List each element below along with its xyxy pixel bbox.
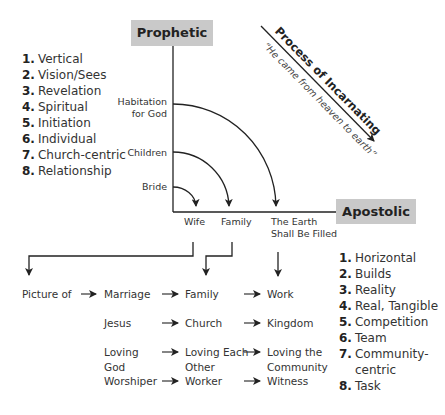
apostolic-traits-list: 1.Horizontal 2.Builds 3.Reality 4.Real, … — [339, 250, 438, 394]
label-children: Children — [127, 147, 167, 159]
list-item: 3.Revelation — [22, 83, 126, 99]
list-item: 6.Individual — [22, 131, 126, 147]
row-0-col-1: Marriage — [104, 287, 150, 302]
row-2-col-3: Loving theCommunity — [267, 345, 328, 375]
list-item: 1.Horizontal — [339, 250, 438, 266]
family-to-family-connector — [206, 242, 232, 275]
prophetic-header: Prophetic — [131, 20, 213, 46]
row-0-col-3: Work — [267, 287, 294, 302]
row-0-col-0: Picture of — [22, 287, 72, 302]
prophetic-label: Prophetic — [137, 25, 208, 40]
list-item: 3.Reality — [339, 282, 438, 298]
list-item: 8.Relationship — [22, 163, 126, 179]
wife-to-marriage-connector — [29, 242, 193, 275]
label-bride: Bride — [142, 181, 167, 193]
list-item: 6.Team — [339, 330, 438, 346]
label-earth: The Earth Shall Be Filled — [271, 216, 337, 240]
row-2-col-1: LovingGod — [104, 345, 139, 375]
label-wife: Wife — [184, 216, 205, 228]
list-item: 8.Task — [339, 378, 438, 394]
row-2-col-2: Loving EachOther — [185, 345, 248, 375]
prophetic-traits-list: 1.Vertical 2.Vision/Sees 3.Revelation 4.… — [22, 51, 126, 179]
list-item: 4.Real, Tangible — [339, 298, 438, 314]
list-item: 5.Initiation — [22, 115, 126, 131]
row-1-col-3: Kingdom — [267, 316, 313, 331]
apostolic-header: Apostolic — [336, 199, 416, 224]
list-item: 2.Builds — [339, 266, 438, 282]
list-item: 7.Community- — [339, 346, 438, 362]
apostolic-label: Apostolic — [342, 204, 410, 219]
label-family: Family — [221, 216, 252, 228]
row-1-col-1: Jesus — [104, 316, 131, 331]
list-item: 2.Vision/Sees — [22, 67, 126, 83]
row-3-col-3: Witness — [267, 374, 308, 389]
label-habitation: Habitation for God — [118, 96, 167, 120]
row-1-col-2: Church — [185, 316, 222, 331]
list-item: centric — [339, 362, 438, 378]
list-item: 1.Vertical — [22, 51, 126, 67]
process-arrow — [261, 26, 374, 141]
list-item: 4.Spiritual — [22, 99, 126, 115]
row-3-col-2: Worker — [185, 374, 222, 389]
row-3-col-1: Worshiper — [104, 374, 157, 389]
list-item: 7.Church-centric — [22, 147, 126, 163]
arc-children — [173, 152, 229, 206]
list-item: 5.Competition — [339, 314, 438, 330]
arc-bride — [173, 187, 196, 206]
row-0-col-2: Family — [185, 287, 219, 302]
arc-habitation — [173, 104, 276, 206]
